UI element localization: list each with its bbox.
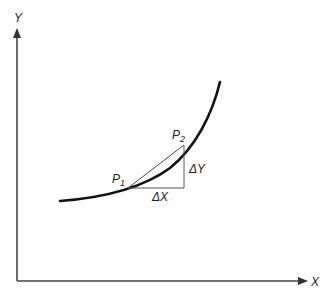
y-axis-label: Y xyxy=(14,11,23,25)
slope-diagram: Y X P1 P2 ΔX ΔY xyxy=(0,0,324,295)
point-p1-label: P1 xyxy=(112,172,125,188)
x-axis-label: X xyxy=(310,275,320,289)
delta-x-label: ΔX xyxy=(151,190,169,204)
curve xyxy=(60,82,220,201)
point-p2-label: P2 xyxy=(172,128,185,144)
secant-line xyxy=(128,145,184,188)
delta-y-label: ΔY xyxy=(188,162,206,176)
